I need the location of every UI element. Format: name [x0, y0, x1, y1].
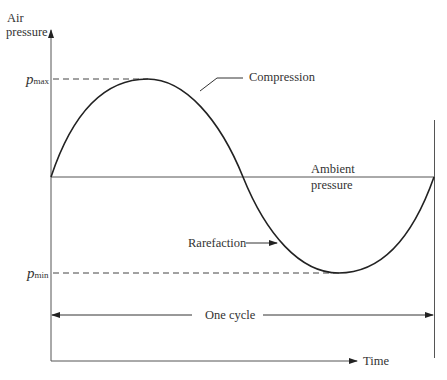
cycle-label: One cycle	[205, 308, 255, 322]
pmax-label: pmax	[26, 72, 49, 88]
pmax-symbol: p	[26, 71, 34, 87]
pmin-subscript: min	[35, 270, 49, 280]
ambient-label-line2: pressure	[311, 178, 353, 192]
sine-wave-diagram	[0, 0, 447, 380]
compression-leader	[200, 78, 243, 91]
pmin-label: pmin	[27, 266, 49, 282]
x-axis-label: Time	[363, 354, 389, 368]
pmax-subscript: max	[34, 76, 50, 86]
ambient-label-line1: Ambient	[311, 162, 355, 176]
compression-label: Compression	[249, 70, 315, 84]
y-axis-label-line1: Air	[7, 11, 24, 25]
rarefaction-label: Rarefaction	[188, 236, 246, 250]
pmin-symbol: p	[27, 265, 35, 281]
y-axis-label-line2: pressure	[6, 25, 48, 39]
